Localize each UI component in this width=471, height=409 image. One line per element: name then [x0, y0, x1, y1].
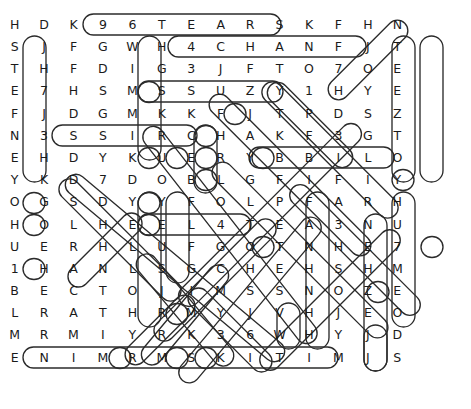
grid-cell[interactable]: R: [29, 325, 58, 347]
grid-cell[interactable]: [412, 236, 441, 258]
grid-cell[interactable]: K: [265, 125, 294, 147]
grid-cell[interactable]: A: [294, 214, 323, 236]
grid-cell[interactable]: I: [353, 169, 382, 191]
grid-cell[interactable]: B: [294, 147, 323, 169]
grid-cell[interactable]: S: [59, 192, 88, 214]
grid-cell[interactable]: T: [147, 14, 176, 36]
grid-cell[interactable]: N: [88, 258, 117, 280]
grid-cell[interactable]: P: [294, 103, 323, 125]
grid-cell[interactable]: J: [353, 347, 382, 369]
grid-cell[interactable]: E: [383, 280, 412, 302]
grid-cell[interactable]: D: [59, 169, 88, 191]
grid-cell[interactable]: I: [59, 347, 88, 369]
grid-cell[interactable]: H: [236, 258, 265, 280]
grid-cell[interactable]: D: [88, 192, 117, 214]
grid-cell[interactable]: M: [118, 103, 147, 125]
grid-cell[interactable]: G: [147, 58, 176, 80]
grid-cell[interactable]: J: [236, 103, 265, 125]
grid-cell[interactable]: H: [353, 14, 382, 36]
grid-cell[interactable]: Z: [236, 81, 265, 103]
grid-cell[interactable]: [412, 347, 441, 369]
grid-cell[interactable]: F: [59, 36, 88, 58]
grid-cell[interactable]: D: [59, 103, 88, 125]
grid-cell[interactable]: I: [118, 125, 147, 147]
grid-cell[interactable]: S: [147, 81, 176, 103]
grid-cell[interactable]: C: [177, 125, 206, 147]
grid-cell[interactable]: Z: [383, 103, 412, 125]
grid-cell[interactable]: O: [206, 192, 235, 214]
grid-cell[interactable]: L: [59, 214, 88, 236]
grid-cell[interactable]: G: [206, 236, 235, 258]
grid-cell[interactable]: C: [206, 36, 235, 58]
grid-cell[interactable]: [412, 14, 441, 36]
grid-cell[interactable]: O: [118, 280, 147, 302]
grid-cell[interactable]: U: [383, 214, 412, 236]
grid-cell[interactable]: T: [383, 125, 412, 147]
grid-cell[interactable]: H: [383, 192, 412, 214]
grid-cell[interactable]: J: [206, 58, 235, 80]
grid-cell[interactable]: [412, 258, 441, 280]
grid-cell[interactable]: M: [118, 81, 147, 103]
grid-cell[interactable]: G: [29, 192, 58, 214]
grid-cell[interactable]: [412, 103, 441, 125]
grid-cell[interactable]: D: [88, 58, 117, 80]
grid-cell[interactable]: [412, 280, 441, 302]
grid-cell[interactable]: P: [265, 192, 294, 214]
grid-cell[interactable]: T: [265, 347, 294, 369]
grid-cell[interactable]: Y: [265, 81, 294, 103]
grid-cell[interactable]: D: [59, 147, 88, 169]
grid-cell[interactable]: [442, 147, 471, 169]
grid-cell[interactable]: R: [353, 192, 382, 214]
grid-cell[interactable]: U: [206, 81, 235, 103]
grid-cell[interactable]: A: [59, 258, 88, 280]
grid-cell[interactable]: L: [236, 192, 265, 214]
grid-cell[interactable]: K: [147, 103, 176, 125]
grid-cell[interactable]: [412, 192, 441, 214]
grid-cell[interactable]: B: [0, 280, 29, 302]
grid-cell[interactable]: S: [265, 280, 294, 302]
grid-cell[interactable]: J: [324, 302, 353, 324]
grid-cell[interactable]: R: [236, 14, 265, 36]
grid-cell[interactable]: M: [177, 302, 206, 324]
grid-cell[interactable]: R: [59, 236, 88, 258]
grid-cell[interactable]: 4: [177, 36, 206, 58]
grid-cell[interactable]: 3: [29, 125, 58, 147]
grid-cell[interactable]: F: [265, 169, 294, 191]
grid-cell[interactable]: U: [0, 236, 29, 258]
grid-cell[interactable]: R: [206, 147, 235, 169]
grid-cell[interactable]: J: [353, 36, 382, 58]
grid-cell[interactable]: E: [383, 81, 412, 103]
grid-cell[interactable]: H: [29, 147, 58, 169]
grid-cell[interactable]: [442, 280, 471, 302]
grid-cell[interactable]: 3: [324, 125, 353, 147]
grid-cell[interactable]: 4: [206, 214, 235, 236]
grid-cell[interactable]: A: [324, 192, 353, 214]
grid-cell[interactable]: C: [206, 258, 235, 280]
grid-cell[interactable]: N: [294, 280, 323, 302]
grid-cell[interactable]: J: [236, 302, 265, 324]
grid-cell[interactable]: L: [0, 302, 29, 324]
grid-cell[interactable]: O: [147, 169, 176, 191]
grid-cell[interactable]: F: [0, 103, 29, 125]
grid-cell[interactable]: O: [236, 236, 265, 258]
grid-cell[interactable]: E: [177, 14, 206, 36]
grid-cell[interactable]: K: [59, 14, 88, 36]
grid-cell[interactable]: G: [177, 258, 206, 280]
grid-cell[interactable]: S: [88, 125, 117, 147]
grid-cell[interactable]: 1: [0, 258, 29, 280]
grid-cell[interactable]: H: [324, 81, 353, 103]
grid-cell[interactable]: K: [177, 103, 206, 125]
grid-cell[interactable]: Y: [88, 147, 117, 169]
grid-cell[interactable]: H: [206, 125, 235, 147]
grid-cell[interactable]: N: [29, 347, 58, 369]
grid-cell[interactable]: T: [265, 58, 294, 80]
grid-cell[interactable]: L: [177, 214, 206, 236]
grid-cell[interactable]: N: [383, 14, 412, 36]
grid-cell[interactable]: S: [0, 36, 29, 58]
grid-cell[interactable]: I: [177, 280, 206, 302]
grid-cell[interactable]: F: [206, 103, 235, 125]
grid-cell[interactable]: [442, 125, 471, 147]
grid-cell[interactable]: D: [29, 14, 58, 36]
grid-cell[interactable]: L: [118, 258, 147, 280]
grid-cell[interactable]: I: [324, 147, 353, 169]
